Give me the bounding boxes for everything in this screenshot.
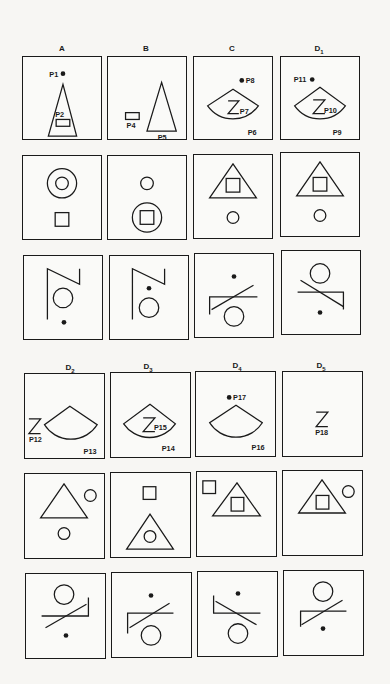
circle-in-triangle <box>144 531 156 543</box>
sector-P14 <box>124 404 176 437</box>
circle <box>53 288 73 308</box>
small-circle-upper-right <box>342 486 354 498</box>
circle <box>313 582 333 602</box>
panel-D1-row1: P11 P10 P9 <box>280 56 360 140</box>
sector-P6 <box>208 89 259 119</box>
square-upper-left <box>203 481 216 494</box>
triangle <box>210 164 257 198</box>
label-P14: P14 <box>162 444 176 453</box>
panel-B-row1: P4 P5 <box>107 56 187 140</box>
column-label-C: C <box>229 44 235 53</box>
dot <box>147 286 152 291</box>
label-P13: P13 <box>84 447 97 456</box>
label-P8: P8 <box>246 76 255 85</box>
bracket <box>210 297 258 315</box>
square-in-triangle <box>231 497 244 511</box>
panel-D1-row3 <box>281 250 361 335</box>
z-stroke <box>132 269 164 320</box>
panel-D3-row4: P15 P14 <box>110 372 191 458</box>
column-label-D4: D4 <box>232 361 241 372</box>
label-P15: P15 <box>154 423 167 432</box>
point-P8 <box>239 78 244 83</box>
dot <box>318 310 323 315</box>
panel-D2-row4: P12 P13 <box>24 373 105 459</box>
label-P7: P7 <box>240 107 249 116</box>
panel-D1-row2 <box>280 152 360 237</box>
bracket <box>301 611 347 627</box>
bracket <box>298 292 344 310</box>
label-P12: P12 <box>29 435 42 444</box>
small-circle-below <box>58 528 70 540</box>
panel-D2-row6 <box>25 573 106 659</box>
panel-C-row3 <box>194 253 274 338</box>
circle <box>54 585 74 605</box>
panel-D4-row6 <box>197 571 278 657</box>
point-P1 <box>61 71 66 76</box>
square <box>143 487 156 500</box>
dot <box>236 591 241 596</box>
sector-P13 <box>45 406 98 439</box>
panel-C-row2 <box>193 154 273 239</box>
point-P11 <box>310 77 315 82</box>
triangle <box>299 480 346 513</box>
slanted-line <box>301 280 344 306</box>
triangle <box>41 484 88 518</box>
z-shape-P12 <box>29 419 41 434</box>
panel-D5-row4: P18 <box>282 371 363 457</box>
column-label-D3: D3 <box>143 362 152 373</box>
rectangle-P4 <box>126 113 140 120</box>
circle <box>228 624 248 644</box>
panel-D5-row6 <box>283 570 364 656</box>
sector-P16 <box>210 405 263 437</box>
panel-B-row2 <box>107 155 187 240</box>
z-shape-P7 <box>228 101 239 114</box>
triangle-P5 <box>147 82 176 131</box>
column-label-D1: D1 <box>314 44 323 55</box>
panel-D4-row4: P17 P16 <box>195 371 276 457</box>
panel-C-row1: P8 P7 P6 <box>193 56 273 140</box>
large-circle <box>47 169 76 198</box>
small-circle <box>56 177 69 190</box>
dot <box>62 320 67 325</box>
column-label-A: A <box>59 44 65 53</box>
label-P16: P16 <box>252 443 265 452</box>
label-P1: P1 <box>49 70 58 79</box>
square <box>140 211 154 225</box>
circle <box>310 264 330 284</box>
bracket <box>128 613 174 633</box>
square-in-triangle <box>316 495 329 509</box>
dot <box>64 633 69 638</box>
slanted-line <box>130 603 170 627</box>
z-stroke <box>47 269 79 320</box>
dot <box>149 593 154 598</box>
column-label-D5: D5 <box>316 361 325 372</box>
dot <box>321 626 326 631</box>
rectangle-P2 <box>56 119 70 126</box>
label-P10: P10 <box>324 106 337 115</box>
z-shape-P18 <box>316 412 328 427</box>
label-P4: P4 <box>127 121 137 130</box>
circle <box>141 626 161 646</box>
panel-A-row3 <box>23 255 103 340</box>
figure: A B C D1 P1 P2 P4 P5 P8 P7 P6 <box>0 0 390 684</box>
square <box>226 178 240 192</box>
panel-D3-row5 <box>110 472 191 558</box>
column-label-B: B <box>143 44 149 53</box>
small-circle <box>227 212 239 224</box>
label-P9: P9 <box>333 128 342 137</box>
dot <box>232 274 237 279</box>
label-P17: P17 <box>233 393 246 402</box>
point-P17 <box>227 395 232 400</box>
square <box>313 177 327 191</box>
square <box>55 213 69 227</box>
circle <box>224 307 244 327</box>
label-P11: P11 <box>294 75 307 84</box>
panel-A-row1: P1 P2 <box>22 56 102 140</box>
panel-D2-row5 <box>24 473 105 559</box>
label-P5: P5 <box>158 133 167 142</box>
label-P2: P2 <box>55 111 64 120</box>
large-circle <box>132 203 161 232</box>
column-label-D2: D2 <box>65 363 74 374</box>
triangle <box>127 514 174 549</box>
panel-D4-row5 <box>196 471 277 557</box>
